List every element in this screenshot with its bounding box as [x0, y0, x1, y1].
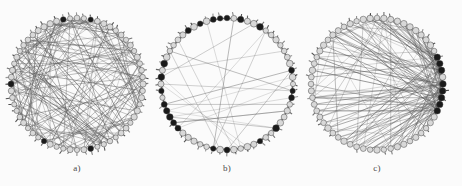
- node-label-mark: [313, 113, 315, 115]
- graph-node: [388, 16, 394, 22]
- graph-node: [36, 135, 41, 140]
- node-label-mark: [433, 43, 435, 44]
- graph-node: [224, 15, 230, 21]
- node-label-mark: [104, 147, 105, 150]
- node-label-mark: [309, 60, 312, 62]
- graph-edge: [170, 51, 293, 91]
- panel-a: a): [0, 0, 154, 186]
- node-label-mark: [185, 25, 187, 28]
- graph-edge: [167, 111, 276, 128]
- graph-edge: [213, 31, 266, 149]
- graph-node: [309, 74, 315, 80]
- graph-node: [401, 20, 408, 27]
- graph-node: [394, 144, 400, 150]
- graph-node: [12, 61, 17, 66]
- graph-edge: [161, 24, 253, 77]
- graph-node: [159, 67, 165, 73]
- node-label-mark: [159, 106, 162, 108]
- graph-node: [185, 28, 191, 34]
- graph-node: [423, 125, 428, 130]
- graph-node: [325, 125, 332, 132]
- graph-node: [290, 88, 295, 93]
- graph-node: [347, 21, 353, 27]
- graph-node: [95, 144, 100, 149]
- node-label-mark: [295, 96, 299, 97]
- node-label-mark: [232, 12, 233, 15]
- graph-node: [231, 15, 237, 21]
- graph-node: [107, 138, 112, 143]
- node-label-mark: [428, 131, 429, 132]
- graph-node: [367, 147, 373, 153]
- graph-node: [431, 48, 436, 53]
- graph-node: [101, 142, 106, 147]
- node-label-mark: [123, 32, 124, 33]
- graph-node: [197, 142, 202, 147]
- graph-node: [308, 81, 314, 87]
- graph-node: [231, 146, 238, 153]
- graph-node: [381, 15, 387, 21]
- graph-node: [161, 60, 168, 67]
- graph-node: [434, 108, 440, 114]
- graph-node: [434, 54, 440, 60]
- graph-node: [21, 42, 27, 48]
- node-label-mark: [166, 46, 168, 48]
- graph-edge: [227, 70, 292, 150]
- node-label-mark: [317, 119, 319, 121]
- graph-node: [289, 74, 296, 81]
- graph-node: [10, 95, 16, 101]
- graph-b: [150, 0, 304, 163]
- node-label-mark: [235, 152, 236, 154]
- graph-node: [132, 48, 137, 53]
- graph-node: [388, 146, 394, 152]
- graph-node: [354, 18, 360, 24]
- node-label-mark: [318, 124, 321, 125]
- graph-node: [224, 147, 230, 153]
- graph-node: [123, 37, 128, 42]
- graph-node: [113, 135, 118, 140]
- graph-node: [335, 28, 341, 34]
- node-label-mark: [283, 41, 285, 43]
- node-label-mark: [273, 135, 275, 137]
- graph-node: [54, 18, 60, 24]
- graph-node: [140, 81, 146, 87]
- node-label-mark: [279, 129, 282, 130]
- graph-node: [210, 17, 216, 23]
- graph-node: [8, 74, 14, 80]
- node-label-mark: [83, 14, 84, 16]
- node-label-mark: [184, 140, 186, 142]
- node-label-mark: [68, 12, 69, 15]
- node-label-mark: [205, 16, 206, 18]
- graph-node: [140, 74, 146, 80]
- graph-node: [263, 28, 268, 33]
- graph-node: [180, 32, 186, 38]
- node-label-mark: [191, 23, 192, 25]
- node-label-mark: [41, 144, 42, 146]
- graph-node: [41, 24, 47, 30]
- graph-node: [14, 108, 19, 113]
- graph-node: [277, 120, 283, 126]
- graph-node: [374, 15, 380, 21]
- node-label-mark: [422, 29, 423, 32]
- node-label-mark: [262, 22, 264, 25]
- node-label-mark: [19, 124, 22, 125]
- node-label-mark: [85, 152, 86, 154]
- graph-node: [204, 144, 210, 150]
- node-label-mark: [178, 32, 180, 33]
- graph-node: [137, 102, 142, 107]
- graph-node: [268, 130, 273, 135]
- node-label-mark: [392, 151, 393, 154]
- graph-node: [314, 108, 320, 114]
- node-label-mark: [277, 36, 278, 38]
- node-label-mark: [92, 151, 93, 154]
- graph-node: [287, 102, 293, 108]
- graph-c: [300, 0, 454, 163]
- graph-node: [118, 130, 124, 136]
- node-label-mark: [117, 25, 118, 28]
- graph-node: [360, 16, 367, 23]
- node-label-mark: [36, 26, 37, 28]
- graph-node: [158, 74, 165, 81]
- graph-node: [257, 139, 262, 144]
- graph-node: [21, 120, 27, 126]
- node-label-mark: [60, 151, 62, 154]
- graph-node: [437, 60, 443, 66]
